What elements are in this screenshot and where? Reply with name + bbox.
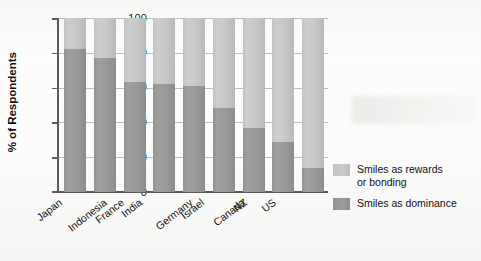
x-tick-label-india: India — [119, 196, 144, 219]
legend-label-rewards: Smiles as rewards or bonding — [357, 163, 443, 188]
bar-segment-dominance — [124, 82, 146, 192]
background-bleedthrough — [352, 96, 477, 124]
bar-israel — [213, 18, 235, 192]
chart-legend: Smiles as rewards or bonding Smiles as d… — [333, 163, 479, 219]
legend-swatch-dominance-icon — [333, 198, 350, 210]
bar-canada — [243, 18, 265, 192]
x-tick-label-us: US — [259, 196, 278, 214]
legend-label-rewards-line2: or bonding — [357, 176, 443, 189]
bar-us — [302, 18, 324, 192]
bar-segment-rewards — [243, 18, 265, 128]
bar-indonesia — [94, 18, 116, 192]
bar-segment-rewards — [272, 18, 294, 142]
bar-segment-dominance — [213, 108, 235, 192]
y-axis-title-text: % of Respondents — [6, 52, 18, 152]
bar-segment-dominance — [153, 84, 175, 192]
y-axis-title: % of Respondents — [6, 0, 18, 52]
bar-segment-dominance — [243, 128, 265, 192]
legend-item-dominance: Smiles as dominance — [333, 197, 479, 210]
bar-japan — [64, 18, 86, 192]
bar-segment-rewards — [153, 18, 175, 84]
legend-label-dominance-line1: Smiles as dominance — [357, 197, 457, 210]
bar-segment-rewards — [302, 18, 324, 168]
bar-segment-rewards — [94, 18, 116, 58]
legend-label-dominance: Smiles as dominance — [357, 197, 457, 210]
bar-chart-figure: % of Respondents 100 80 60 40 20 0 Japan… — [0, 0, 481, 261]
bars-layer — [57, 18, 328, 192]
bar-segment-dominance — [272, 142, 294, 192]
bar-segment-rewards — [183, 18, 205, 86]
legend-label-rewards-line1: Smiles as rewards — [357, 163, 443, 176]
legend-swatch-rewards-icon — [333, 164, 350, 176]
bar-segment-rewards — [64, 18, 86, 49]
bar-nz — [272, 18, 294, 192]
bar-segment-dominance — [94, 58, 116, 192]
bar-segment-dominance — [302, 168, 324, 192]
bar-segment-rewards — [213, 18, 235, 108]
x-tick-label-japan: Japan — [34, 196, 64, 223]
bar-segment-dominance — [183, 86, 205, 192]
bar-segment-rewards — [124, 18, 146, 82]
bar-germany — [183, 18, 205, 192]
bar-segment-dominance — [64, 49, 86, 192]
legend-item-rewards: Smiles as rewards or bonding — [333, 163, 479, 188]
plot-area — [57, 18, 328, 192]
bar-france — [124, 18, 146, 192]
bar-india — [153, 18, 175, 192]
